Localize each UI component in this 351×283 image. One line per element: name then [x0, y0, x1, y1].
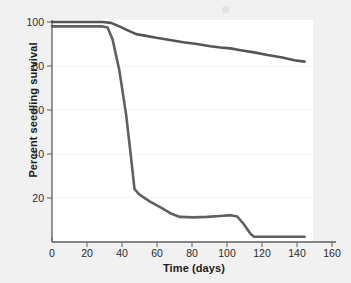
scan-speck — [222, 6, 229, 13]
y-tick-marks — [47, 22, 52, 198]
plot-background — [52, 20, 313, 242]
plot-canvas — [0, 0, 351, 283]
chart-figure: Percent seedling survival Time (days) 10… — [0, 0, 351, 283]
